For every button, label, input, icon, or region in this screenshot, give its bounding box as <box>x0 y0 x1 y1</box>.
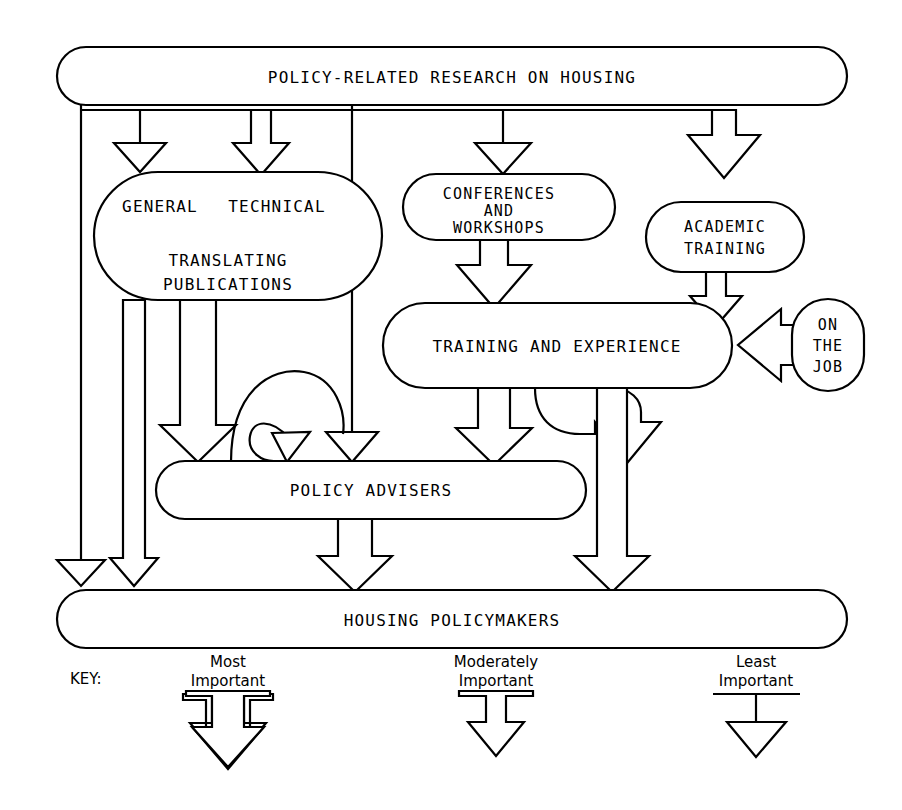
edge-advisers-to-policymakers <box>318 518 392 592</box>
node-training-and-experience[interactable]: TRAINING AND EXPERIENCE <box>383 303 732 388</box>
key-least-label-line2: Important <box>719 672 793 690</box>
node-translating-label-line2: PUBLICATIONS <box>163 275 293 294</box>
edge-research-to-technical <box>233 110 289 175</box>
edge-advisers-self-loop <box>231 371 344 462</box>
edge-research-to-academic <box>688 110 760 178</box>
edge-translating-to-policymakers <box>110 300 158 586</box>
node-academic-label-line2: TRAINING <box>684 240 766 258</box>
key-most-label-line1: Most <box>210 653 246 671</box>
flowchart-canvas: POLICY-RELATED RESEARCH ON HOUSING GENER… <box>0 0 902 810</box>
node-on-the-job[interactable]: ON THE JOB <box>792 299 864 391</box>
key-entry-most-important: Most Important <box>183 653 273 769</box>
node-conferences-and-workshops[interactable]: CONFERENCES AND WORKSHOPS <box>403 174 615 240</box>
edge-research-to-general <box>81 110 270 172</box>
node-advisers-label: POLICY ADVISERS <box>290 481 453 500</box>
key-entry-moderately-important: Moderately Important <box>454 653 539 756</box>
node-policymakers-label: HOUSING POLICYMAKERS <box>344 611 561 630</box>
edge-research-to-conferences <box>475 110 531 174</box>
node-conferences-label-line3: WORKSHOPS <box>453 219 545 237</box>
key-moderate-label-line2: Important <box>459 672 533 690</box>
key-least-arrow-icon <box>713 694 800 757</box>
node-academic-label-line1: ACADEMIC <box>684 218 766 236</box>
key-moderate-label-line1: Moderately <box>454 653 539 671</box>
node-technical-label: TECHNICAL <box>228 197 326 216</box>
key-entry-least-important: Least Important <box>713 653 800 757</box>
node-conferences-label-line2: AND <box>484 202 515 220</box>
node-translating-label-line1: TRANSLATING <box>168 251 287 270</box>
node-general-label: GENERAL <box>122 197 198 216</box>
edge-conferences-to-training <box>457 240 531 308</box>
node-housing-policymakers[interactable]: HOUSING POLICYMAKERS <box>57 590 847 648</box>
node-onthejob-label-line1: ON <box>818 316 838 334</box>
node-conferences-label-line1: CONFERENCES <box>443 185 556 203</box>
node-onthejob-label-line2: THE <box>813 337 844 355</box>
node-policy-advisers[interactable]: POLICY ADVISERS <box>156 461 586 519</box>
node-translating-publications[interactable]: GENERAL TECHNICAL TRANSLATING PUBLICATIO… <box>94 172 382 300</box>
key-least-label-line1: Least <box>736 653 776 671</box>
node-research[interactable]: POLICY-RELATED RESEARCH ON HOUSING <box>57 47 847 105</box>
key-most-arrow-icon <box>183 691 273 769</box>
flowchart-diagram: POLICY-RELATED RESEARCH ON HOUSING GENER… <box>0 0 902 810</box>
node-research-label: POLICY-RELATED RESEARCH ON HOUSING <box>268 68 636 87</box>
node-onthejob-label-line3: JOB <box>813 358 844 376</box>
key-title: KEY: <box>70 670 102 688</box>
edge-translating-to-advisers <box>160 300 236 462</box>
key-most-label-line2: Important <box>191 672 265 690</box>
key-moderate-arrow-icon <box>459 691 533 756</box>
edge-training-to-advisers <box>456 388 532 465</box>
node-academic-training[interactable]: ACADEMIC TRAINING <box>646 202 804 272</box>
edge-research-to-policymakers <box>57 105 105 586</box>
node-training-label: TRAINING AND EXPERIENCE <box>432 337 681 356</box>
